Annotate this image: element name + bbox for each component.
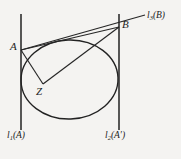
line-label-l2-sub: 2 bbox=[108, 134, 111, 141]
geometry-figure: A B Z l1(A) l2(A′) l3(B) bbox=[0, 0, 181, 159]
line-label-l1-sub: 1 bbox=[10, 134, 13, 141]
point-label-z: Z bbox=[36, 86, 42, 97]
line-label-l2-arg: (A′) bbox=[111, 130, 125, 140]
line-label-l3-arg: (B) bbox=[153, 10, 165, 20]
inscribed-ellipse bbox=[20, 38, 120, 120]
line-label-l3: l3(B) bbox=[147, 11, 165, 21]
figure-canvas bbox=[0, 0, 181, 159]
line-label-l2: l2(A′) bbox=[105, 131, 125, 141]
point-label-a: A bbox=[10, 41, 17, 52]
line-label-l3-sub: 3 bbox=[150, 14, 153, 21]
point-label-b: B bbox=[122, 19, 129, 30]
line-label-l1-arg: (A) bbox=[13, 130, 25, 140]
line-label-l1: l1(A) bbox=[7, 131, 25, 141]
